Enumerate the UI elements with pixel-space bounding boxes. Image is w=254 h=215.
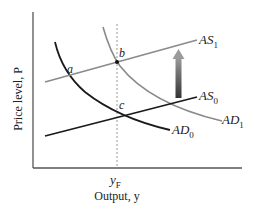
as1-label: AS1 [198,32,218,50]
as0-label: AS0 [198,88,218,106]
as-ad-diagram: a b c AS1 AS0 AD1 AD0 yF Output, y Price… [0,0,254,215]
point-b-dot [115,60,119,64]
ad0-curve [55,42,170,130]
x-axis-title: Output, y [94,189,139,203]
ad0-label: AD0 [171,122,194,140]
upward-shift-arrow-icon [173,49,185,98]
yf-tick-label: yF [108,172,121,190]
point-c-label: c [119,98,125,112]
point-b-label: b [119,46,125,60]
y-axis-title: Price level, P [11,67,25,131]
ad1-label: AD1 [221,112,244,130]
point-a-label: a [67,62,73,76]
